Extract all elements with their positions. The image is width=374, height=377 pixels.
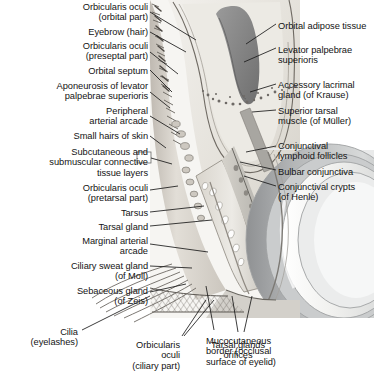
label-tarsus: Tarsus bbox=[121, 208, 148, 218]
label-orbicularis-oculi-pretarsal-part: Orbicularis oculi (pretarsal part) bbox=[83, 183, 148, 204]
label-eyebrow-hair: Eyebrow (hair) bbox=[88, 27, 148, 37]
label-orbital-adipose-tissue: Orbital adipose tissue bbox=[278, 21, 366, 31]
label-orbicularis-oculi-preseptal-part: Orbicularis oculi (preseptal part) bbox=[83, 41, 148, 62]
label-conjunctival-crypts-of-henle: Conjunctival crypts (of Henle) bbox=[278, 182, 355, 203]
label-small-hairs-of-skin: Small hairs of skin bbox=[74, 131, 148, 141]
label-sebaceous-gland-of-zeis: Sebaceous gland (of Zeis) bbox=[77, 286, 148, 307]
label-conjunctival-lymphoid-follicles: Conjunctival lymphoid follicles bbox=[278, 141, 347, 162]
label-orbital-septum: Orbital septum bbox=[88, 66, 148, 76]
eyelid-anatomy-figure: Orbicularis oculi (orbital part) Eyebrow… bbox=[0, 0, 374, 377]
label-subcutaneous-and-submuscular-connective-tissue-layers: Subcutaneous and submuscular connective … bbox=[49, 147, 148, 178]
label-cilia-eyelashes: Cilia (eyelashes) bbox=[30, 327, 78, 348]
label-tarsal-gland: Tarsal gland bbox=[98, 222, 148, 232]
label-levator-palpebrae-superioris: Levator palpebrae superioris bbox=[278, 45, 352, 66]
label-orbicularis-oculi-orbital-part: Orbicularis oculi (orbital part) bbox=[83, 2, 148, 23]
label-accessory-lacrimal-gland-of-krause: Accessory lacrimal gland (of Krause) bbox=[278, 80, 355, 101]
label-marginal-arterial-arcade: Marginal arterial arcade bbox=[82, 236, 148, 257]
label-mucocutaneous-border: Mucocutaneous border (occlusal surface o… bbox=[206, 336, 276, 367]
label-peripheral-arterial-arcade: Peripheral arterial arcade bbox=[89, 106, 148, 127]
label-ciliary-sweat-gland-of-moll: Ciliary sweat gland (of Moll) bbox=[71, 261, 148, 282]
label-orbicularis-oculi-ciliary-part: Orbicularis oculi (ciliary part) bbox=[132, 340, 180, 371]
label-aponeurosis-of-levator-palpebrae-superioris: Aponeurosis of levator palpebrae superio… bbox=[57, 81, 148, 102]
label-superior-tarsal-muscle-of-muller: Superior tarsal muscle (of Müller) bbox=[278, 106, 351, 127]
label-bulbar-conjunctiva: Bulbar conjunctiva bbox=[278, 167, 353, 177]
